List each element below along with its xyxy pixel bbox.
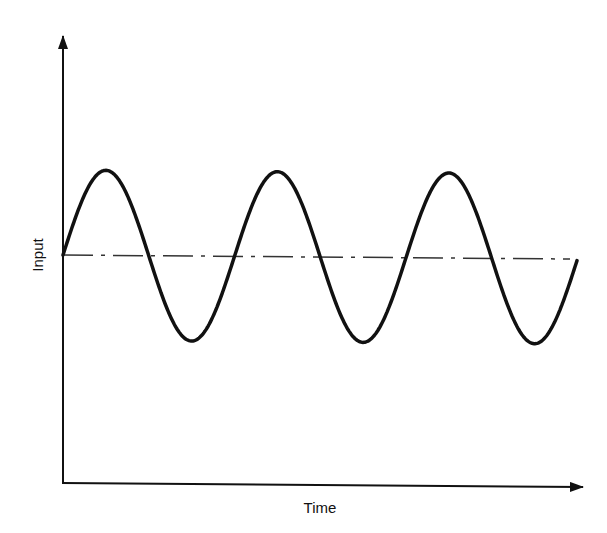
waveform-diagram: Input Time: [0, 0, 607, 533]
sine-wave-curve: [63, 170, 577, 343]
y-axis-label: Input: [29, 237, 46, 271]
x-axis-label: Time: [304, 499, 337, 516]
mean-reference-line: [63, 255, 570, 259]
x-axis: [62, 483, 583, 487]
